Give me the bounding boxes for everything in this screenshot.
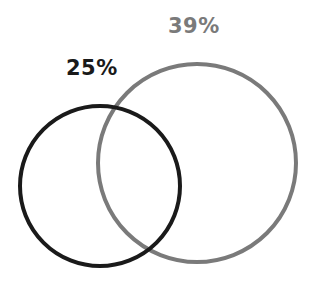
set-b-percentage-label: 39%	[168, 14, 220, 38]
circle-set-b	[98, 64, 296, 262]
set-a-percentage-label: 25%	[66, 56, 118, 80]
venn-diagram	[0, 0, 314, 290]
